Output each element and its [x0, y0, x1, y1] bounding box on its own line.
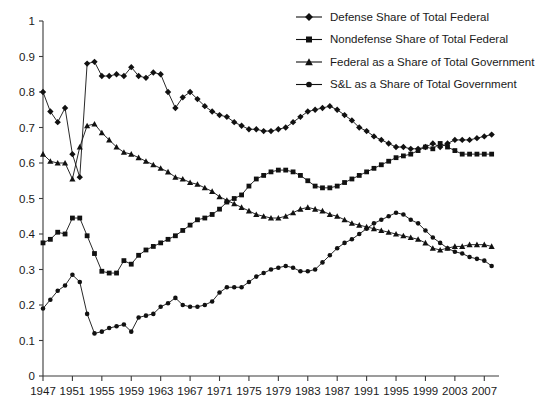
data-point-marker — [122, 322, 127, 327]
data-point-marker — [363, 128, 369, 134]
data-point-marker — [275, 126, 281, 132]
x-axis-tick-label: 1955 — [89, 385, 115, 397]
data-point-marker — [114, 271, 119, 276]
data-point-marker — [482, 152, 487, 157]
data-point-marker — [283, 168, 288, 173]
data-point-marker — [151, 244, 156, 249]
data-point-marker — [195, 304, 200, 309]
data-point-marker — [70, 273, 75, 278]
x-axis-tick-label: 1971 — [207, 385, 233, 397]
data-point-marker — [312, 107, 318, 113]
data-point-marker — [290, 210, 296, 216]
data-point-marker — [55, 289, 60, 294]
legend-item[interactable]: Defense Share of Total Federal — [296, 11, 489, 23]
legend-marker-square — [306, 37, 312, 43]
data-point-marker — [327, 211, 333, 217]
y-axis-tick-label: 1 — [29, 15, 35, 27]
data-point-marker — [276, 168, 281, 173]
data-point-marker — [216, 194, 222, 200]
x-axis-tick-label: 1991 — [354, 385, 380, 397]
data-point-marker — [55, 119, 61, 125]
data-point-marker — [466, 137, 472, 143]
data-point-marker — [305, 108, 311, 114]
data-point-marker — [92, 251, 97, 256]
data-point-marker — [85, 312, 90, 317]
data-point-marker — [239, 285, 244, 290]
data-point-marker — [216, 112, 222, 118]
data-point-marker — [452, 137, 458, 143]
y-axis-tick-label: 0.3 — [19, 264, 35, 276]
data-point-marker — [129, 329, 134, 334]
data-point-marker — [91, 59, 97, 65]
legend-item[interactable]: S&L as a Share of Total Government — [296, 78, 517, 90]
data-point-marker — [350, 237, 355, 242]
data-series — [40, 121, 495, 253]
data-point-marker — [180, 303, 185, 308]
data-point-marker — [158, 165, 164, 171]
legend-marker-circle — [306, 82, 312, 88]
x-axis: 1947195119551959196319671971197519791983… — [30, 376, 499, 397]
data-point-marker — [350, 177, 355, 182]
data-point-marker — [69, 176, 75, 182]
x-axis-tick-label: 1967 — [177, 385, 203, 397]
data-point-marker — [150, 69, 156, 75]
data-point-marker — [268, 128, 274, 134]
data-point-marker — [107, 271, 112, 276]
x-axis-tick-label: 1987 — [324, 385, 350, 397]
data-point-marker — [136, 155, 142, 161]
x-axis-tick-label: 1963 — [148, 385, 174, 397]
y-axis-tick-label: 0.9 — [19, 51, 35, 63]
data-point-marker — [357, 232, 362, 237]
data-point-marker — [319, 105, 325, 111]
data-point-marker — [166, 301, 171, 306]
data-point-marker — [143, 158, 149, 164]
x-axis-tick-label: 1995 — [383, 385, 409, 397]
legend-marker-diamond — [305, 13, 313, 21]
data-point-marker — [305, 178, 310, 183]
x-axis-tick-label: 1975 — [236, 385, 262, 397]
chart-container: 00.10.20.30.40.50.60.70.80.91 1947195119… — [0, 0, 535, 410]
data-point-marker — [48, 237, 53, 242]
data-point-marker — [187, 179, 193, 185]
data-point-marker — [143, 75, 149, 81]
data-point-marker — [210, 212, 215, 217]
data-point-marker — [62, 105, 68, 111]
data-point-marker — [423, 228, 428, 233]
data-point-marker — [107, 326, 112, 331]
data-point-marker — [445, 145, 450, 150]
data-point-marker — [253, 126, 259, 132]
data-point-marker — [158, 304, 163, 309]
data-series — [41, 141, 494, 275]
data-point-marker — [364, 169, 369, 174]
legend-item[interactable]: Federal as a Share of Total Government — [296, 56, 535, 68]
x-axis-tick-label: 2003 — [442, 385, 468, 397]
data-point-marker — [482, 258, 487, 263]
data-point-marker — [291, 169, 296, 174]
data-point-marker — [232, 196, 237, 201]
data-point-marker — [320, 185, 325, 190]
data-point-marker — [40, 151, 46, 157]
data-point-marker — [422, 240, 428, 246]
data-point-marker — [408, 218, 413, 223]
data-point-marker — [291, 265, 296, 270]
data-point-marker — [77, 174, 83, 180]
data-point-marker — [408, 146, 414, 152]
data-point-marker — [489, 264, 494, 269]
data-point-marker — [460, 152, 465, 157]
legend-item[interactable]: Nondefense Share of Total Federal — [296, 33, 508, 45]
data-point-marker — [63, 283, 68, 288]
data-point-marker — [320, 260, 325, 265]
legend-label: Nondefense Share of Total Federal — [330, 33, 508, 45]
data-point-marker — [416, 221, 421, 226]
data-point-marker — [209, 188, 215, 194]
data-point-marker — [386, 159, 391, 164]
data-point-marker — [342, 241, 347, 246]
x-axis-tick-label: 1999 — [413, 385, 439, 397]
y-axis-tick-label: 0 — [29, 370, 35, 382]
data-point-marker — [217, 207, 222, 212]
data-point-marker — [393, 144, 399, 150]
data-point-marker — [283, 213, 289, 219]
data-point-marker — [453, 249, 458, 254]
data-point-marker — [91, 121, 97, 127]
data-point-marker — [438, 141, 443, 146]
